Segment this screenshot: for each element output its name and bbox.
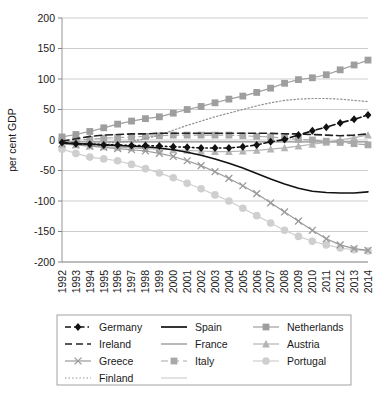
x-tick-label: 2005	[237, 270, 249, 294]
marker-circle	[128, 161, 136, 169]
marker-circle	[114, 157, 122, 165]
marker-circle	[309, 237, 317, 245]
legend-label: Netherlands	[287, 321, 344, 333]
y-tick-label: 100	[37, 73, 55, 85]
x-tick-label: 1993	[70, 270, 82, 294]
y-tick-label: 0	[49, 134, 55, 146]
legend-label: Austria	[287, 338, 320, 350]
marker-square	[365, 141, 372, 148]
marker-diamond	[212, 144, 219, 152]
marker-x	[281, 209, 288, 216]
marker-square	[114, 121, 121, 128]
x-tick-label: 1992	[56, 270, 68, 294]
marker-square	[309, 74, 316, 81]
marker-square	[170, 110, 177, 117]
x-tick-label: 2003	[209, 270, 221, 294]
marker-square	[337, 66, 344, 73]
x-tick-label: 2008	[278, 270, 290, 294]
gdp-line-chart: 200150100500-50-100-150-200per cent GDP1…	[0, 0, 373, 402]
marker-square	[337, 139, 344, 146]
legend-label: Ireland	[99, 338, 131, 350]
marker-diamond	[323, 123, 330, 131]
marker-circle	[267, 219, 275, 227]
marker-circle	[253, 212, 261, 220]
marker-diamond	[351, 115, 358, 123]
marker-x	[309, 227, 316, 234]
x-tick-label: 1995	[98, 270, 110, 294]
marker-circle	[295, 233, 303, 241]
marker-circle	[86, 153, 94, 161]
y-tick-label: 150	[37, 42, 55, 54]
marker-x	[253, 190, 260, 197]
marker-circle	[211, 191, 219, 199]
x-tick-label: 1999	[153, 270, 165, 294]
y-tick-label: -50	[40, 164, 55, 176]
marker-x	[226, 175, 233, 182]
x-tick-label: 2000	[167, 270, 179, 294]
marker-square	[323, 138, 330, 145]
y-tick-label: -200	[34, 256, 55, 268]
marker-square	[100, 124, 107, 131]
marker-square	[73, 131, 80, 138]
marker-square	[295, 76, 302, 83]
marker-x	[198, 162, 205, 169]
marker-square	[351, 62, 358, 69]
marker-square	[156, 113, 163, 120]
marker-square	[323, 71, 330, 78]
marker-square	[212, 99, 219, 106]
x-axis-labels: 1992199319941995199619971998199920002001…	[56, 270, 373, 294]
marker-square	[142, 115, 149, 122]
legend-label: Italy	[195, 355, 215, 367]
marker-square	[365, 57, 372, 64]
marker-circle	[72, 150, 80, 158]
marker-diamond	[337, 119, 344, 127]
legend-label: Germany	[99, 321, 143, 333]
marker-square	[86, 128, 93, 135]
marker-square	[184, 106, 191, 113]
marker-square	[309, 137, 316, 144]
marker-diamond	[239, 143, 246, 151]
y-tick-label: 200	[37, 12, 55, 24]
marker-x	[212, 168, 219, 175]
marker-square	[171, 358, 178, 365]
y-tick-label: -100	[34, 195, 55, 207]
marker-square	[239, 93, 246, 100]
x-tick-label: 1997	[125, 270, 137, 294]
x-tick-label: 2007	[264, 270, 276, 294]
marker-circle	[239, 205, 247, 213]
marker-circle	[183, 180, 191, 188]
x-tick-label: 2004	[223, 270, 235, 294]
x-tick-label: 2014	[362, 270, 373, 294]
legend-label: Spain	[195, 321, 222, 333]
marker-circle	[262, 357, 270, 365]
marker-square	[267, 85, 274, 92]
y-tick-label: -150	[34, 225, 55, 237]
legend-label: Finland	[99, 372, 134, 384]
x-tick-label: 2011	[320, 270, 332, 293]
marker-square	[351, 140, 358, 147]
y-tick-label: 50	[43, 103, 55, 115]
marker-x	[295, 218, 302, 225]
marker-diamond	[365, 111, 372, 119]
legend-label: Portugal	[287, 355, 326, 367]
x-tick-label: 1996	[111, 270, 123, 294]
marker-circle	[281, 226, 289, 234]
marker-diamond	[226, 144, 233, 152]
marker-circle	[142, 165, 150, 173]
x-tick-label: 2006	[251, 270, 263, 294]
marker-circle	[156, 169, 164, 177]
marker-square	[198, 103, 205, 110]
marker-circle	[225, 197, 233, 205]
x-tick-label: 2009	[292, 270, 304, 294]
marker-square	[263, 324, 270, 331]
marker-square	[226, 96, 233, 103]
marker-circle	[350, 246, 358, 254]
marker-circle	[100, 155, 108, 163]
x-tick-label: 1998	[139, 270, 151, 294]
x-tick-label: 2002	[195, 270, 207, 294]
marker-circle	[169, 174, 177, 182]
chart-figure: 200150100500-50-100-150-200per cent GDP1…	[0, 0, 373, 402]
x-tick-label: 1994	[84, 270, 96, 294]
x-tick-label: 2010	[306, 270, 318, 294]
marker-square	[253, 89, 260, 96]
